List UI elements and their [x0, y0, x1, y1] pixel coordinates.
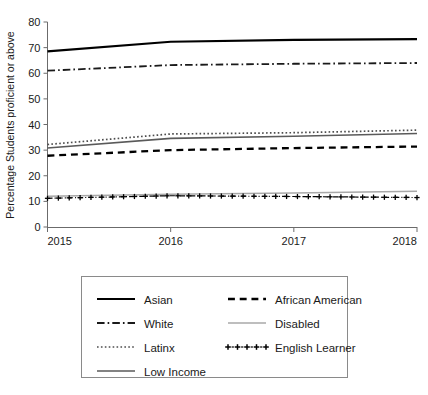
legend-label-disabled[interactable]: Disabled: [275, 318, 320, 330]
y-tick-label: 0: [34, 221, 40, 233]
y-axis-title: Percentage Students proficient or above: [4, 31, 16, 219]
x-tick-label: 2016: [158, 235, 182, 247]
legend-label-latinx[interactable]: Latinx: [144, 342, 175, 354]
series-line-asian: [48, 39, 418, 51]
x-tick-label: 2017: [282, 235, 306, 247]
series-line-white: [48, 63, 418, 71]
legend-label-low-income[interactable]: Low Income: [144, 366, 206, 378]
series-lines: [45, 39, 420, 201]
y-tick-label: 20: [28, 170, 40, 182]
y-tick-label: 60: [28, 67, 40, 79]
y-tick-label: 10: [28, 195, 40, 207]
line-chart: Percentage Students proficient or above …: [0, 0, 428, 395]
y-axis-ticks: 01020304050607080: [28, 16, 47, 233]
legend-label-english-learner[interactable]: English Learner: [275, 342, 356, 354]
y-tick-label: 30: [28, 144, 40, 156]
legend-entries: AsianWhiteLatinxLow IncomeAfrican Americ…: [97, 294, 362, 378]
x-tick-label: 2015: [48, 235, 72, 247]
y-tick-label: 70: [28, 42, 40, 54]
y-tick-label: 80: [28, 16, 40, 28]
legend-label-white[interactable]: White: [144, 318, 173, 330]
legend-label-asian[interactable]: Asian: [144, 294, 173, 306]
x-tick-label: 2018: [393, 235, 417, 247]
y-axis-title-text: Percentage Students proficient or above: [4, 31, 16, 219]
series-line-low-income: [48, 133, 418, 148]
y-tick-label: 50: [28, 93, 40, 105]
legend-label-african-american[interactable]: African American: [275, 294, 362, 306]
chart-figure: Percentage Students proficient or above …: [0, 0, 428, 395]
y-tick-label: 40: [28, 119, 40, 131]
series-line-african-american: [48, 147, 418, 156]
x-axis-ticks: 2015201620172018: [48, 227, 418, 247]
